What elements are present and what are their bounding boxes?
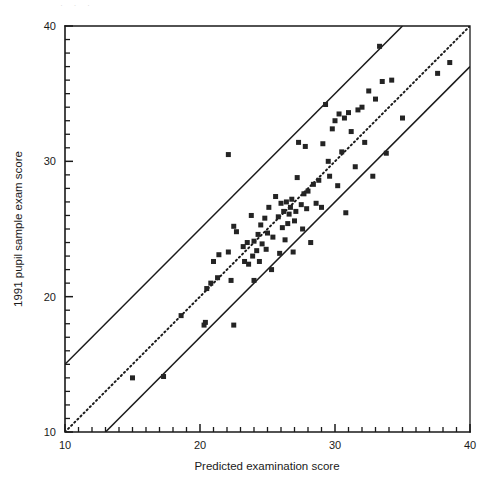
y-tick-label: 30 <box>44 155 56 167</box>
data-point <box>323 102 328 107</box>
scatter-plot-svg: 1020304010203040 Predicted examination s… <box>0 0 499 483</box>
data-point <box>277 251 282 256</box>
data-point <box>343 210 348 215</box>
data-point <box>370 174 375 179</box>
data-point <box>308 240 313 245</box>
data-point <box>291 250 296 255</box>
data-point <box>377 44 382 49</box>
data-point <box>211 259 216 264</box>
data-point <box>179 313 184 318</box>
data-point <box>316 178 321 183</box>
data-point <box>366 88 371 93</box>
data-point <box>161 374 166 379</box>
data-point <box>256 232 261 237</box>
data-point <box>288 205 293 210</box>
data-point <box>320 141 325 146</box>
data-point <box>260 241 265 246</box>
data-point <box>203 320 208 325</box>
data-point <box>279 201 284 206</box>
data-point <box>258 222 263 227</box>
data-point <box>231 224 236 229</box>
data-point <box>384 151 389 156</box>
data-point <box>342 116 347 121</box>
y-tick-label: 40 <box>44 20 56 32</box>
data-point <box>252 239 257 244</box>
data-point <box>330 126 335 131</box>
data-point <box>254 248 259 253</box>
figure-container: · · · 1020304010203040 Predicted examina… <box>0 0 499 483</box>
data-point <box>250 254 255 259</box>
data-point <box>300 227 305 232</box>
data-point <box>299 202 304 207</box>
data-point <box>226 152 231 157</box>
data-point <box>216 252 221 257</box>
data-point <box>252 278 257 283</box>
data-point <box>349 129 354 134</box>
data-point <box>285 221 290 226</box>
data-point <box>208 281 213 286</box>
data-point <box>234 229 239 234</box>
data-point <box>246 262 251 267</box>
x-tick-label: 40 <box>464 439 476 451</box>
x-axis-title: Predicted examination score <box>194 460 339 472</box>
data-point <box>262 216 267 221</box>
data-point <box>289 197 294 202</box>
data-point <box>257 259 262 264</box>
identity-line <box>65 26 470 432</box>
data-point <box>380 79 385 84</box>
data-point <box>314 201 319 206</box>
reference-lines <box>65 26 470 432</box>
x-tick-label: 10 <box>59 439 71 451</box>
data-point <box>215 275 220 280</box>
data-point <box>373 97 378 102</box>
data-point <box>335 183 340 188</box>
lower-confidence-line <box>106 67 471 432</box>
data-point <box>319 205 324 210</box>
data-point <box>306 189 311 194</box>
data-point <box>293 209 298 214</box>
data-point <box>231 323 236 328</box>
data-point <box>447 60 452 65</box>
data-point <box>270 235 275 240</box>
data-point <box>360 105 365 110</box>
data-point <box>333 118 338 123</box>
data-point <box>304 206 309 211</box>
data-point <box>303 144 308 149</box>
data-point <box>276 214 281 219</box>
data-point <box>337 111 342 116</box>
x-tick-label: 30 <box>329 439 341 451</box>
y-axis-title: 1991 pupil sample exam score <box>12 151 24 307</box>
data-point <box>229 278 234 283</box>
y-tick-label: 20 <box>44 291 56 303</box>
y-tick-label: 10 <box>44 426 56 438</box>
data-point <box>269 267 274 272</box>
data-point <box>287 212 292 217</box>
data-point <box>273 194 278 199</box>
data-point <box>435 71 440 76</box>
data-point <box>389 78 394 83</box>
x-tick-label: 20 <box>194 439 206 451</box>
data-point <box>327 174 332 179</box>
data-point <box>283 237 288 242</box>
data-point <box>204 286 209 291</box>
data-point <box>280 225 285 230</box>
data-point <box>295 175 300 180</box>
data-point <box>226 250 231 255</box>
data-point <box>249 213 254 218</box>
data-point <box>400 116 405 121</box>
data-point <box>292 218 297 223</box>
data-point <box>326 159 331 164</box>
data-points <box>130 44 452 381</box>
data-point <box>284 199 289 204</box>
data-point <box>265 231 270 236</box>
data-point <box>353 164 358 169</box>
data-point <box>362 140 367 145</box>
data-point <box>264 247 269 252</box>
data-point <box>281 209 286 214</box>
data-point <box>266 205 271 210</box>
upper-confidence-line <box>65 26 403 364</box>
data-point <box>346 110 351 115</box>
data-point <box>296 140 301 145</box>
data-point <box>311 182 316 187</box>
scan-artifact-text: · · · <box>60 0 220 10</box>
